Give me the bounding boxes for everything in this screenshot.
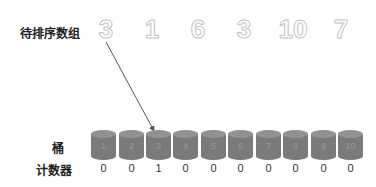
bucket-number: 4 bbox=[173, 141, 198, 151]
counter-value: 0 bbox=[338, 162, 363, 174]
counter-value: 0 bbox=[256, 162, 281, 174]
bucket: 1 bbox=[91, 130, 116, 160]
counter-value: 0 bbox=[228, 162, 253, 174]
bucket-number: 2 bbox=[119, 141, 144, 151]
bucket-number: 8 bbox=[283, 141, 308, 151]
bucket-number: 1 bbox=[91, 141, 116, 151]
bucket: 5 bbox=[201, 130, 226, 160]
bucket-number: 3 bbox=[146, 141, 171, 151]
bucket-number: 10 bbox=[338, 141, 363, 151]
counter-value: 0 bbox=[201, 162, 226, 174]
bucket: 10 bbox=[338, 130, 363, 160]
counter-value: 0 bbox=[173, 162, 198, 174]
bucket-number: 6 bbox=[228, 141, 253, 151]
bucket-number: 9 bbox=[311, 141, 336, 151]
bucket: 7 bbox=[256, 130, 281, 160]
bucket: 2 bbox=[119, 130, 144, 160]
bucket-number: 5 bbox=[201, 141, 226, 151]
bucket: 6 bbox=[228, 130, 253, 160]
bucket: 3 bbox=[146, 130, 171, 160]
bucket-number: 7 bbox=[256, 141, 281, 151]
counter-value: 0 bbox=[91, 162, 116, 174]
counter-value: 0 bbox=[311, 162, 336, 174]
bucket: 8 bbox=[283, 130, 308, 160]
counter-value: 0 bbox=[119, 162, 144, 174]
bucket: 9 bbox=[311, 130, 336, 160]
counter-value: 1 bbox=[146, 162, 171, 174]
bucket: 4 bbox=[173, 130, 198, 160]
counter-value: 0 bbox=[283, 162, 308, 174]
